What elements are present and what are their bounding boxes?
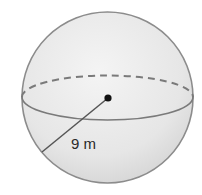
sphere-figure: 9 m bbox=[0, 0, 202, 195]
radius-label: 9 m bbox=[71, 135, 96, 152]
center-point bbox=[104, 94, 111, 101]
sphere-diagram: 9 m bbox=[0, 0, 202, 195]
